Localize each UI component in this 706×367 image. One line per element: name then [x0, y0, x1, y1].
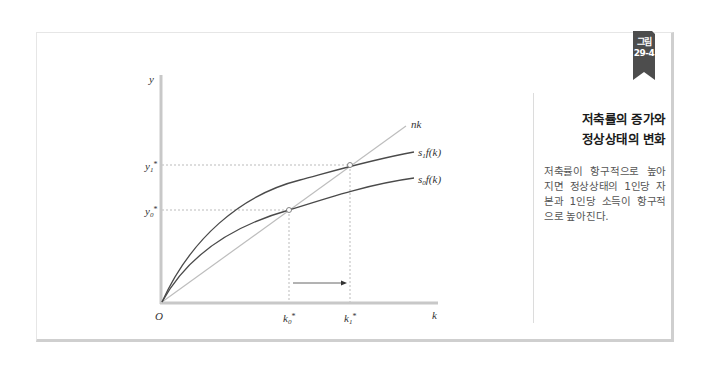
y1-star-label: y1*: [145, 159, 157, 176]
s1-fk-curve: [162, 152, 414, 302]
y-axis-label: y: [149, 73, 154, 85]
y0-star-label: y0*: [145, 204, 157, 221]
nk-line: [162, 126, 406, 302]
origin-label: O: [155, 310, 163, 322]
k1-star-label: k1*: [344, 311, 356, 328]
arrow-head-icon: [341, 281, 347, 286]
s0-fk-curve: [162, 178, 414, 302]
k0-star-label: k0*: [283, 311, 295, 328]
steady-state-point-1: [348, 163, 353, 168]
nk-label: nk: [411, 118, 421, 130]
s0-fk-label: s0f(k): [418, 173, 441, 189]
x-axis-label: k: [432, 309, 437, 321]
steady-state-point-0: [287, 208, 292, 213]
s1-fk-label: s1f(k): [418, 146, 441, 162]
